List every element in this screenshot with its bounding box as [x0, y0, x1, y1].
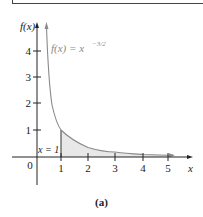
y-tick-label: 1	[26, 124, 32, 136]
x-axis-arrow-icon	[187, 155, 193, 159]
x-tick-label: 1	[58, 162, 64, 174]
x-equals-1-annotation: x = 1	[37, 144, 59, 155]
y-tick-label: 4	[26, 45, 32, 57]
y-axis-label: f(x)	[20, 20, 36, 33]
x-tick-label: 5	[165, 162, 171, 174]
figure-caption: (a)	[0, 196, 203, 208]
function-exponent: −3/2	[92, 40, 106, 48]
x-tick-label: 2	[85, 162, 91, 174]
chart-plot: 1 2 3 4 5 1 2 3 4 0 x f(x) x = 1 f(x) = …	[0, 0, 203, 217]
x-tick-label: 4	[140, 162, 146, 174]
y-tick-label: 2	[26, 97, 32, 109]
x-tick-label: 3	[112, 162, 118, 174]
shaded-area	[61, 130, 173, 157]
y-tick-label: 3	[26, 71, 32, 83]
origin-label: 0	[27, 159, 33, 171]
curve-arrow-top-icon	[45, 22, 49, 29]
function-label: f(x) = x	[51, 42, 84, 55]
x-axis-label: x	[187, 162, 193, 174]
y-axis-arrow-icon	[35, 22, 39, 28]
